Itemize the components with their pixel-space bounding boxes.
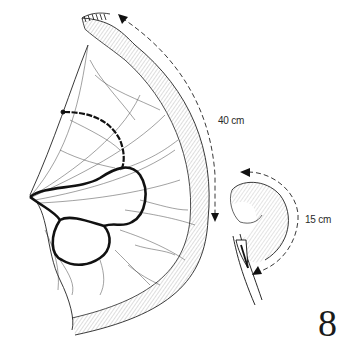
figure-number: 8 (318, 304, 337, 342)
length-label-40cm: 40 cm (218, 115, 244, 126)
vessel-arcade-loops (30, 110, 146, 265)
surgical-illustration: 40 cm 15 cm 8 (0, 0, 354, 360)
length-label-15cm: 15 cm (305, 214, 331, 225)
illustration-canvas (0, 0, 354, 360)
